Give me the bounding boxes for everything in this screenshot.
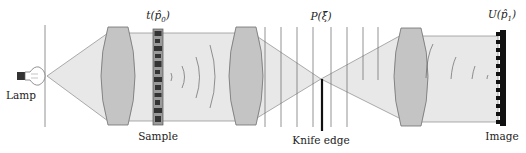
sample-slide (153, 29, 163, 125)
image-function-subscript: 1 (508, 15, 512, 23)
optical-setup-svg (0, 0, 526, 153)
lamp-label: Lamp (6, 90, 36, 101)
sample-function-text: t(p̂ (146, 9, 161, 21)
optical-diagram: Lamp t(p̂0) Sample P(ξ̂) Knife edge U(p̂… (0, 0, 526, 153)
sample-label: Sample (138, 131, 178, 142)
lens-1 (101, 27, 135, 125)
pupil-function-label: P(ξ̂) (310, 11, 331, 22)
lens-2 (229, 27, 263, 125)
image-label: Image (485, 131, 518, 142)
sample-function-subscript: 0 (161, 16, 165, 24)
knife-edge-label: Knife edge (292, 135, 349, 146)
image-function-text: U(p̂ (488, 8, 508, 20)
lamp-icon (17, 67, 45, 85)
lens-3 (394, 28, 428, 126)
image-function-label: U(p̂1) (488, 9, 516, 23)
collimated-beam-1 (118, 33, 246, 121)
illumination-cone (47, 33, 108, 121)
sample-function-label: t(p̂0) (146, 10, 170, 24)
